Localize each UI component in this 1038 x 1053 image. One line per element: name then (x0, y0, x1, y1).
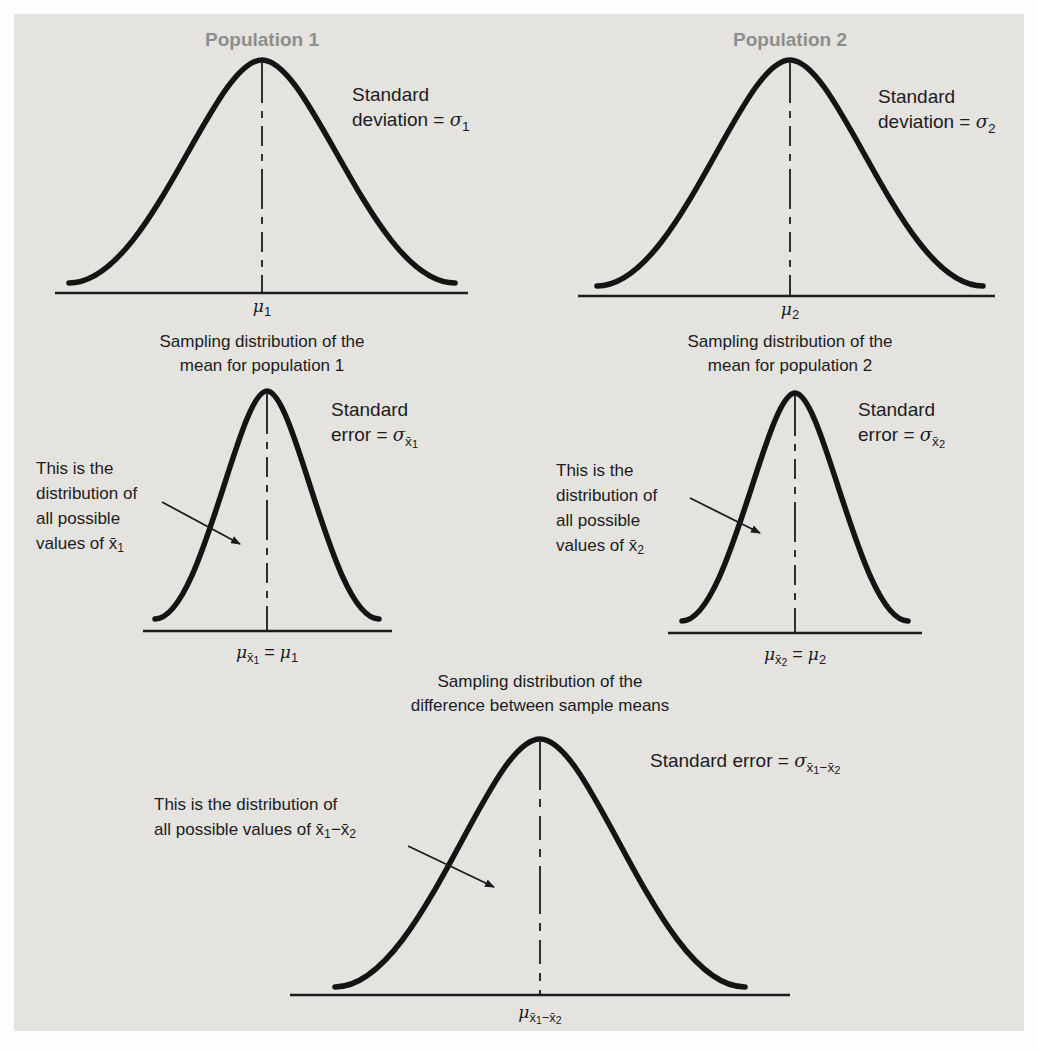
mu-symbol: μ (781, 299, 792, 319)
mu-symbol: μ (236, 642, 247, 662)
mu-symbol: μ (808, 644, 819, 664)
sampling2-std-error-label: Standard error = σx̄2 (858, 397, 945, 457)
mu-symbol: μ (764, 644, 775, 664)
mu-symbol: μ (518, 1002, 529, 1022)
population2-std-deviation-label: Standard deviation = σ2 (878, 84, 996, 141)
population2-title: Population 2 (678, 29, 902, 51)
std-deviation-line1: Standard (352, 82, 470, 107)
population1-title: Population 1 (150, 29, 374, 51)
std-deviation-line2: deviation = σ2 (878, 109, 996, 141)
sampling1-title: Sampling distribution of the mean for po… (112, 330, 412, 378)
sampling1-annotation: This is the distribution of all possible… (36, 456, 137, 561)
sampling2-mean-label: μx̄2 = μ2 (715, 644, 875, 668)
sigma-symbol: σ (393, 424, 405, 445)
sigma-symbol: σ (794, 750, 806, 771)
sampling2-annotation: This is the distribution of all possible… (556, 458, 657, 563)
difference-mean-label: μx̄1−x̄2 (460, 1002, 620, 1026)
difference-annotation: This is the distribution of all possible… (154, 792, 356, 847)
sampling1-mean-label: μx̄1 = μ1 (187, 642, 347, 666)
sampling1-std-error-label: Standard error = σx̄1 (331, 397, 418, 457)
xbar-symbol: x̄ (629, 536, 638, 555)
xbar-symbol: x̄ (109, 534, 118, 553)
textbook-figure-page: { "figure": { "population1": { "title": … (0, 0, 1038, 1053)
population1-std-deviation-label: Standard deviation = σ1 (352, 82, 470, 139)
mu-symbol: μ (253, 296, 264, 316)
difference-std-error-label: Standard error = σx̄1−x̄2 (650, 748, 840, 783)
sampling1-annotation-arrow (162, 502, 240, 544)
std-deviation-line2: deviation = σ1 (352, 107, 470, 139)
sigma-symbol: σ (920, 424, 932, 445)
population2-mean-label: μ2 (730, 299, 850, 322)
sigma-symbol: σ (450, 109, 462, 130)
sampling2-title: Sampling distribution of the mean for po… (640, 330, 940, 378)
sigma-symbol: σ (976, 111, 988, 132)
distribution-curves-svg (0, 0, 1038, 1053)
population1-mean-label: μ1 (202, 296, 322, 319)
std-deviation-line1: Standard (878, 84, 996, 109)
difference-title: Sampling distribution of the difference … (380, 670, 700, 718)
difference-annotation-arrow (408, 846, 494, 887)
mu-symbol: μ (280, 642, 291, 662)
sampling2-annotation-arrow (690, 498, 760, 533)
xbar-symbol: x̄ (316, 820, 325, 839)
